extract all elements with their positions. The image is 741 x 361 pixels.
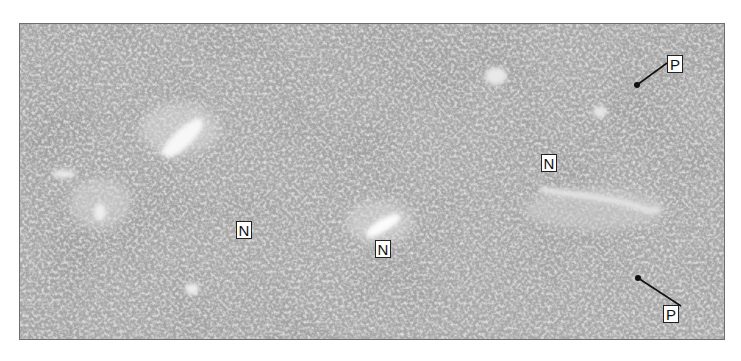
label-p-lower: P <box>663 305 679 323</box>
label-n-center: N <box>375 240 391 258</box>
pointer-dot-icon <box>634 82 640 88</box>
pointer-p-upper <box>634 63 667 88</box>
label-pointers <box>20 24 725 340</box>
pointer-p-lower <box>635 275 681 306</box>
micrograph: P N N N P <box>19 23 725 340</box>
label-p-upper: P <box>667 55 683 73</box>
label-n-right: N <box>541 154 557 172</box>
label-n-left: N <box>236 221 252 239</box>
pointer-dot-icon <box>635 275 641 281</box>
